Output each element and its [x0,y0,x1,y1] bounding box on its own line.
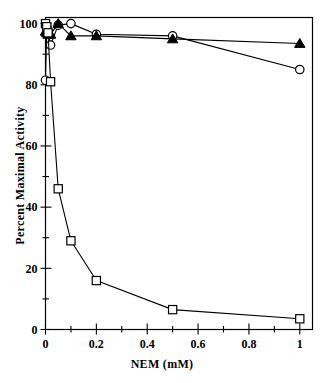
plot-frame [46,18,313,330]
chart-canvas: 00.20.40.60.81020406080100 [0,0,324,383]
data-point-marker [296,315,304,323]
open-circle-series [41,19,304,84]
data-point-marker [46,41,54,49]
data-point-marker [296,65,304,73]
svg-text:0: 0 [32,323,38,337]
axis-ticks [41,24,300,335]
data-point-marker [67,237,75,245]
svg-text:0.6: 0.6 [191,337,206,351]
data-series-layer [40,19,305,323]
y-axis-title: Percent Maximal Activity [13,86,28,266]
data-point-marker [54,185,62,193]
x-axis-title: NEM (mM) [0,357,324,372]
axis-tick-labels: 00.20.40.60.81020406080100 [20,17,303,351]
svg-text:100: 100 [20,17,38,31]
open-square-series [41,20,303,323]
svg-text:0.8: 0.8 [241,337,256,351]
filled-triangle-series [40,19,305,48]
figure-panel: 00.20.40.60.81020406080100 NEM (mM) Perc… [0,0,324,383]
svg-text:1: 1 [297,337,303,351]
svg-text:0: 0 [43,337,49,351]
svg-text:0.2: 0.2 [89,337,104,351]
data-point-marker [46,78,54,86]
svg-text:0.4: 0.4 [140,337,155,351]
data-point-marker [44,29,52,37]
data-point-marker [92,276,100,284]
data-point-marker [169,306,177,314]
data-point-marker [67,19,75,27]
